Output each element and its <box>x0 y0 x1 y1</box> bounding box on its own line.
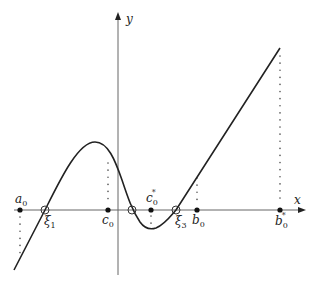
point-c0 <box>105 207 110 212</box>
point-b0 <box>194 207 199 212</box>
bisection-diagram: x y a0 ξ1 c0 c0* ξ3 b0 b0* <box>0 0 319 287</box>
label-b0star: b0* <box>275 213 292 230</box>
point-c0star <box>148 207 153 212</box>
label-a0: a0 <box>15 192 27 208</box>
label-c0star: c0* <box>146 190 162 207</box>
y-axis-arrow-icon <box>115 12 121 20</box>
label-b0: b0 <box>192 213 205 229</box>
x-axis-label: x <box>294 193 301 207</box>
function-curve <box>14 48 280 270</box>
label-xi1: ξ1 <box>44 214 56 230</box>
x-axis <box>14 207 306 213</box>
y-axis-label: y <box>126 12 133 26</box>
dotted-guides <box>20 56 280 255</box>
x-axis-arrow-icon <box>298 207 306 213</box>
label-xi3: ξ3 <box>175 214 187 230</box>
label-c0: c0 <box>102 213 114 229</box>
plot-canvas <box>0 0 319 287</box>
y-axis <box>115 12 121 275</box>
